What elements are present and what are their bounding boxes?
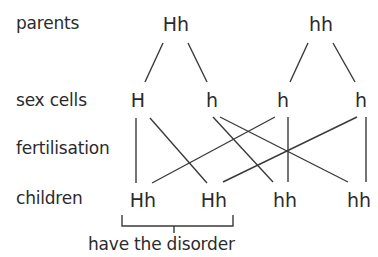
line-h3-to-child1	[152, 117, 275, 183]
sex-cell-allele: h	[355, 91, 367, 110]
child-genotype: hh	[273, 191, 297, 210]
line-h-to-child4	[220, 117, 348, 182]
row-label-sex-cells: sex cells	[16, 92, 87, 109]
bracket-label: have the disorder	[88, 236, 235, 253]
parent-genotype: Hh	[163, 15, 189, 34]
child-genotype: hh	[347, 191, 371, 210]
sex-cell-allele: H	[131, 91, 145, 110]
child-genotype: Hh	[201, 191, 227, 210]
connector-lines	[0, 0, 378, 257]
line-parent1-to-H	[145, 43, 163, 82]
genetic-cross-diagram: parents sex cells fertilisation children…	[0, 0, 378, 257]
sex-cell-allele: h	[206, 91, 218, 110]
sex-cell-allele: h	[277, 91, 289, 110]
disorder-bracket	[122, 215, 233, 226]
line-parent2-to-h2	[333, 43, 355, 82]
child-genotype: Hh	[130, 191, 156, 210]
row-label-fertilisation: fertilisation	[16, 140, 110, 157]
row-label-parents: parents	[16, 15, 79, 32]
line-H-to-child2	[150, 118, 207, 183]
line-parent2-to-h1	[290, 43, 308, 82]
parent-genotype: hh	[309, 15, 333, 34]
row-label-children: children	[16, 190, 83, 207]
line-parent1-to-h	[188, 43, 207, 82]
